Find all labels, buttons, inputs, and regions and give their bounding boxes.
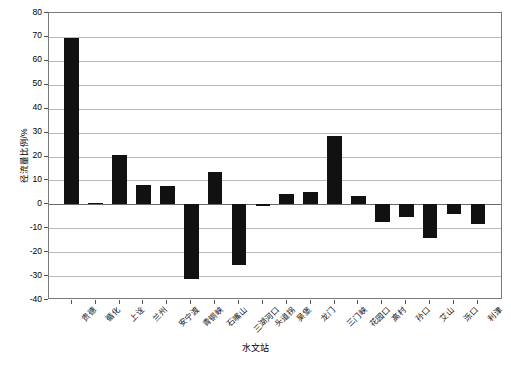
y-axis-tick-label: 10 (0, 175, 42, 184)
x-axis-tick-label: 艾山 (439, 306, 456, 323)
x-axis-tick-label: 龙门 (319, 306, 336, 323)
x-axis-tick-label: 青铜峡 (202, 306, 225, 329)
bar (160, 186, 175, 204)
x-axis-tick-mark (429, 300, 430, 304)
x-axis-tick-mark (405, 300, 406, 304)
x-axis-tick-label: 贵德 (80, 306, 97, 323)
y-axis-tick-label: 50 (0, 79, 42, 88)
gridline (49, 109, 501, 110)
bar (64, 38, 79, 204)
x-axis-tick-mark (95, 300, 96, 304)
gridline (49, 252, 501, 253)
x-axis-tick-mark (190, 300, 191, 304)
x-axis-title: 水文站 (0, 341, 511, 354)
x-axis-tick-mark (334, 300, 335, 304)
y-axis-tick-label: -20 (0, 247, 42, 256)
y-axis-tick-label: 80 (0, 8, 42, 17)
x-axis-tick-mark (262, 300, 263, 304)
x-axis-tick-mark (238, 300, 239, 304)
x-axis-tick-label: 利津 (487, 306, 504, 323)
y-axis-tick-label: -40 (0, 295, 42, 304)
y-axis-tick-label: -30 (0, 271, 42, 280)
bar (303, 192, 318, 204)
y-axis-tick-mark (44, 299, 48, 300)
x-axis-tick-mark (381, 300, 382, 304)
y-axis-tick-label: 30 (0, 127, 42, 136)
x-axis-tick-mark (477, 300, 478, 304)
bar (327, 136, 342, 205)
x-axis-tick-label: 高村 (391, 306, 408, 323)
x-axis-tick-mark (142, 300, 143, 304)
gridline (49, 61, 501, 62)
gridline (49, 37, 501, 38)
x-axis-tick-label: 三门峡 (346, 306, 369, 329)
bar (136, 185, 151, 205)
x-axis-tick-label: 花园口 (369, 306, 392, 329)
bar (88, 203, 103, 205)
bar (279, 194, 294, 205)
bar (471, 204, 486, 223)
x-axis-tick-label: 孙口 (415, 306, 432, 323)
y-axis-tick-label: 0 (0, 199, 42, 208)
x-axis-tick-label: 兰州 (152, 306, 169, 323)
x-axis-tick-label: 吴堡 (295, 306, 312, 323)
x-axis-tick-mark (119, 300, 120, 304)
y-axis-tick-label: 70 (0, 31, 42, 40)
bar (184, 204, 199, 279)
bar (256, 204, 271, 206)
y-axis-tick-label: 60 (0, 55, 42, 64)
bar (399, 204, 414, 217)
y-axis-tick-label: 20 (0, 151, 42, 160)
bar (447, 204, 462, 214)
x-axis-tick-label: 泺口 (463, 306, 480, 323)
x-axis-tick-mark (214, 300, 215, 304)
bar (423, 204, 438, 238)
x-axis-tick-label: 安宁渡 (178, 306, 201, 329)
plot-area (48, 12, 502, 299)
x-axis-tick-mark (357, 300, 358, 304)
bar (232, 204, 247, 264)
gridline (49, 276, 501, 277)
bar (208, 172, 223, 204)
chart-figure: 径流量比例/% 80706050403020100-10-20-30-40 贵德… (0, 0, 511, 365)
x-axis-tick-mark (310, 300, 311, 304)
bar (375, 204, 390, 222)
bar (351, 196, 366, 205)
y-axis-tick-label: 40 (0, 103, 42, 112)
x-axis-tick-label: 循化 (104, 306, 121, 323)
gridline (49, 85, 501, 86)
x-axis-tick-mark (453, 300, 454, 304)
x-axis-tick-label: 上诠 (128, 306, 145, 323)
x-axis-tick-mark (71, 300, 72, 304)
bar (112, 155, 127, 204)
gridline (49, 133, 501, 134)
y-axis-tick-label: -10 (0, 223, 42, 232)
x-axis-tick-label: 石嘴山 (226, 306, 249, 329)
x-axis-tick-mark (286, 300, 287, 304)
x-axis-tick-mark (166, 300, 167, 304)
